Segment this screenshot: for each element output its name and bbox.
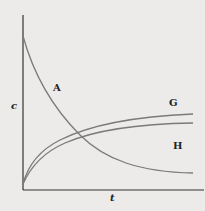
y-axis-label: c [11, 100, 17, 111]
x-axis-label: t [110, 192, 115, 203]
curve-h [23, 123, 193, 184]
curve-g-label: G [169, 97, 178, 108]
curve-h-label: H [173, 140, 182, 151]
curve-a-label: A [53, 82, 61, 93]
curve-g [23, 114, 193, 184]
